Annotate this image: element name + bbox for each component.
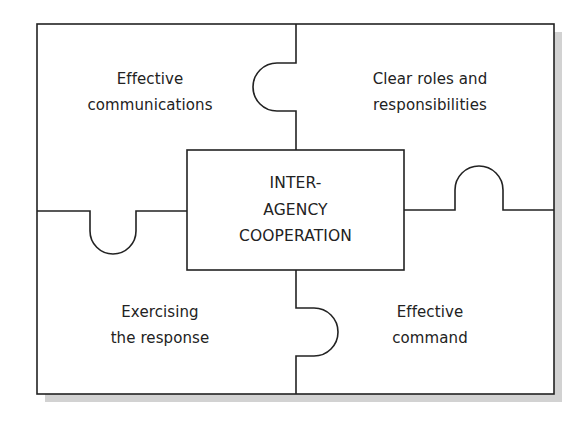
label-line: the response bbox=[70, 325, 250, 351]
label-line: AGENCY bbox=[187, 197, 404, 224]
label-line: COOPERATION bbox=[187, 223, 404, 250]
piece-bottom-right-label: Effective command bbox=[355, 299, 505, 351]
label-line: INTER- bbox=[187, 170, 404, 197]
label-line: Effective bbox=[355, 299, 505, 325]
piece-top-left-label: Effective communications bbox=[60, 66, 240, 118]
piece-top-right-label: Clear roles and responsibilities bbox=[335, 66, 525, 118]
label-line: Effective bbox=[60, 66, 240, 92]
center-label: INTER- AGENCY COOPERATION bbox=[187, 170, 404, 250]
label-line: responsibilities bbox=[335, 92, 525, 118]
label-line: communications bbox=[60, 92, 240, 118]
piece-bottom-left-label: Exercising the response bbox=[70, 299, 250, 351]
label-line: command bbox=[355, 325, 505, 351]
label-line: Exercising bbox=[70, 299, 250, 325]
label-line: Clear roles and bbox=[335, 66, 525, 92]
